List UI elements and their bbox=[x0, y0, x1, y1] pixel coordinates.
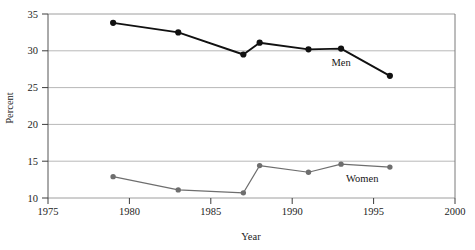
x-tick-label-1980: 1980 bbox=[119, 206, 140, 217]
data-point bbox=[175, 29, 181, 35]
y-axis-tick-labels: 35 30 25 20 15 10 bbox=[28, 9, 39, 204]
y-axis-ticks bbox=[42, 14, 48, 198]
x-tick-label-1990: 1990 bbox=[282, 206, 303, 217]
data-point bbox=[241, 190, 246, 195]
y-tick-label-15: 15 bbox=[28, 156, 39, 167]
y-tick-label-20: 20 bbox=[28, 119, 39, 130]
data-point bbox=[338, 161, 343, 166]
x-tick-label-2000: 2000 bbox=[445, 206, 466, 217]
data-point bbox=[257, 163, 262, 168]
plot-area-background bbox=[48, 14, 455, 198]
data-point bbox=[110, 20, 116, 26]
y-tick-label-35: 35 bbox=[28, 9, 39, 20]
x-tick-label-1995: 1995 bbox=[363, 206, 384, 217]
data-point bbox=[305, 46, 311, 52]
data-point bbox=[306, 170, 311, 175]
data-point bbox=[387, 73, 393, 79]
data-point bbox=[387, 164, 392, 169]
data-point bbox=[176, 187, 181, 192]
x-axis-tick-labels: 1975 1980 1985 1990 1995 2000 bbox=[38, 206, 466, 217]
x-axis-ticks bbox=[48, 198, 455, 204]
data-point bbox=[257, 40, 263, 46]
y-tick-label-10: 10 bbox=[28, 193, 39, 204]
y-tick-label-25: 25 bbox=[28, 82, 39, 93]
y-axis-title: Percent bbox=[4, 92, 15, 124]
chart-canvas: 35 30 25 20 15 10 1975 1980 1985 1990 19… bbox=[0, 0, 475, 250]
series-annotation-men: Men bbox=[331, 57, 351, 68]
data-point bbox=[338, 45, 344, 51]
x-axis-title: Year bbox=[241, 231, 261, 242]
data-point bbox=[110, 174, 115, 179]
x-tick-label-1985: 1985 bbox=[200, 206, 221, 217]
y-tick-label-30: 30 bbox=[28, 45, 39, 56]
data-point bbox=[240, 51, 246, 57]
line-chart: 35 30 25 20 15 10 1975 1980 1985 1990 19… bbox=[0, 0, 475, 250]
x-tick-label-1975: 1975 bbox=[38, 206, 59, 217]
series-annotation-women: Women bbox=[346, 173, 379, 184]
